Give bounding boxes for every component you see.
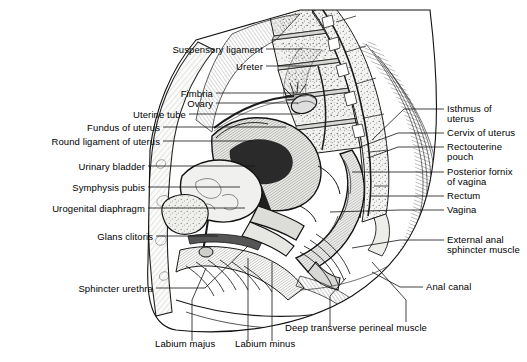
label-labium-minus: Labium minus (235, 339, 295, 350)
gluteal-hatching (300, 40, 433, 340)
ovary-shape (289, 91, 319, 116)
label-suspensory-ligament: Suspensory ligament (172, 45, 263, 56)
abdominal-wall (149, 42, 214, 316)
glans-clitoris-shape (199, 247, 213, 257)
label-fundus-of-uterus: Fundus of uterus (87, 123, 160, 134)
label-sphincter-muscle: sphincter muscle (447, 245, 520, 256)
anal-canal-shape (308, 262, 340, 290)
urethra-shape (202, 220, 208, 256)
leader-anal-canal (372, 272, 423, 287)
label-sphincter-urethra: Sphincter urethra (78, 284, 153, 295)
bladder-icon (180, 160, 262, 256)
leader-external-anal-sphincter (352, 240, 444, 248)
leader-isthmus-of-uterus (372, 109, 444, 140)
vertebra-icon (268, 2, 372, 154)
label-ovary: Ovary (187, 99, 213, 110)
label-glans-clitoris: Glans clitoris (97, 232, 153, 243)
label-rectum: Rectum (447, 191, 480, 202)
deep-transverse-perineal-shape (296, 276, 358, 312)
posterior-muscle (196, 14, 300, 132)
label-round-ligament-of-uterus: Round ligament of uterus (51, 137, 160, 148)
label-vagina: Vagina (447, 205, 476, 216)
leader-sphincter-urethra (156, 246, 248, 288)
leader-deep-transverse-perineal (330, 278, 346, 327)
adnexa (214, 48, 325, 150)
label-cervix-of-uterus: Cervix of uterus (447, 128, 515, 139)
label-deep-transverse-perineal-muscle: Deep transverse perineal muscle (285, 323, 427, 334)
ureter-shape (318, 66, 325, 150)
label-uterine-tube: Uterine tube (133, 110, 186, 121)
suspensory-ligament-shape (284, 48, 322, 98)
labia-shapes (186, 260, 272, 296)
uterus-icon (212, 118, 321, 212)
leader-cervix-of-uterus (360, 133, 444, 147)
vagina-shape (242, 206, 316, 256)
label-anal-canal: Anal canal (426, 282, 471, 293)
rectouterine-pouch-shape (318, 166, 340, 194)
label-symphysis-pubis: Symphysis pubis (72, 183, 145, 194)
body-outline (148, 10, 437, 332)
leader-vagina (330, 210, 444, 212)
rectum-icon (296, 150, 364, 290)
label-urinary-bladder: Urinary bladder (79, 162, 145, 173)
label-ureter: Ureter (236, 62, 263, 73)
label-pouch: pouch (447, 152, 473, 163)
sacrum-icon (312, 2, 389, 256)
symphysis-pubis-shape (162, 195, 208, 235)
label-uterus: uterus (447, 114, 474, 125)
label-urogenital-diaphragm: Urogenital diaphragm (52, 204, 145, 215)
label-labium-majus: Labium majus (155, 339, 215, 350)
leader-labium-majus (192, 268, 206, 341)
fimbria-shape (284, 82, 306, 96)
leader-deep-transverse-perineal-2 (372, 262, 406, 322)
external-anal-sphincter-shape (300, 234, 350, 286)
lower-body-contour (176, 256, 432, 328)
leader-rectouterine-pouch (368, 147, 444, 158)
perineum (176, 247, 358, 312)
label-of-vagina: of vagina (447, 177, 486, 188)
anatomy-figure: Suspensory ligamentUreterFimbriaOvaryUte… (0, 0, 527, 362)
urogenital-diaphragm-shape (188, 234, 262, 250)
